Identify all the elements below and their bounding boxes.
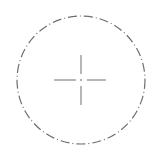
drawing-canvas: Circle with center mark	[0, 0, 158, 158]
center-point-icon[interactable]	[80, 79, 82, 81]
cad-drawing	[0, 0, 158, 158]
center-mark	[54, 55, 106, 105]
